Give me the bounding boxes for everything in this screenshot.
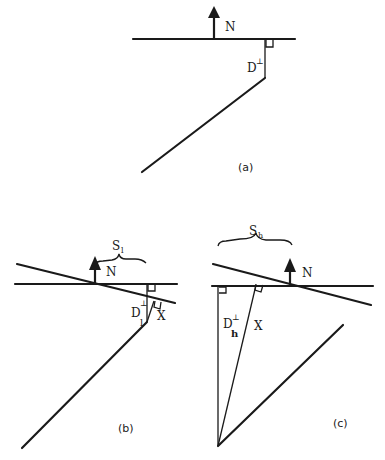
x-line [218, 285, 256, 446]
right-angle-marker [219, 287, 226, 293]
distance-superscript: ⊥ [232, 313, 240, 322]
x-label: X [254, 319, 263, 333]
north-label: N [225, 20, 236, 34]
north-label: N [106, 265, 117, 279]
panel-a: N D ⊥ (a) [133, 6, 295, 174]
brace-label: S [249, 224, 257, 238]
brace-label: S [112, 239, 120, 253]
trajectory-line [142, 78, 265, 172]
brace-subscript: h [258, 231, 263, 240]
brace-subscript: l [121, 246, 124, 255]
caption-b: (b) [118, 422, 134, 435]
brace-s-l [95, 254, 146, 265]
caption-c: (c) [333, 417, 348, 430]
right-angle-marker-x [154, 301, 161, 309]
panel-c: S h N D ⊥ h X (c) [212, 224, 373, 446]
panel-b: S l N D ⊥ l X (b) [15, 239, 177, 448]
caption-a: (a) [238, 161, 253, 174]
trajectory-line [218, 325, 343, 446]
distance-superscript: ⊥ [256, 57, 264, 66]
distance-subscript: h [231, 328, 239, 339]
right-angle-marker [266, 39, 273, 47]
x-label: X [157, 309, 166, 323]
north-arrowhead-icon [208, 6, 220, 18]
north-arrowhead-icon [284, 258, 296, 272]
north-arrowhead-icon [89, 256, 101, 270]
diagram-canvas: N D ⊥ (a) S l N D ⊥ l X (b) S h N [0, 0, 385, 460]
distance-subscript: l [140, 317, 143, 328]
north-label: N [302, 266, 313, 280]
distance-superscript: ⊥ [140, 299, 148, 308]
x-line [147, 301, 154, 322]
